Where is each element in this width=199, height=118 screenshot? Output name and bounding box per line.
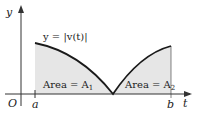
tick-b-label: b xyxy=(167,98,174,111)
area-diagram: y t O a b y = |v(t)| Area = A1 Area = A2 xyxy=(0,0,199,118)
origin-label: O xyxy=(8,97,17,110)
curve-label: y = |v(t)| xyxy=(42,31,88,43)
y-axis-arrow-icon xyxy=(18,5,24,13)
y-axis-label: y xyxy=(5,6,13,19)
x-axis-label: t xyxy=(183,97,188,110)
tick-a-label: a xyxy=(32,98,39,111)
